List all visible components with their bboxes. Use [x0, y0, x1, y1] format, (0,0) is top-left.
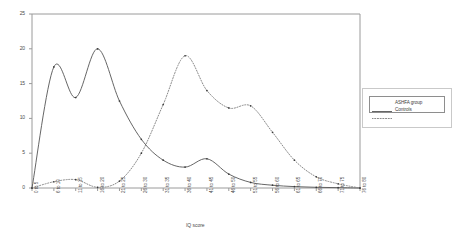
data-point-marker [140, 152, 142, 154]
data-point-marker [162, 159, 164, 161]
data-point-marker [315, 176, 317, 178]
data-point-marker [250, 105, 252, 107]
x-tick-label: 21 to 25 [121, 177, 126, 193]
data-point-marker [140, 138, 142, 140]
y-tick-label: 10 [11, 115, 25, 120]
data-point-marker [359, 187, 361, 189]
legend-container: ASHFA group Controls [362, 88, 452, 128]
x-tick-label: 56 to 60 [275, 177, 280, 193]
x-tick-label: 36 to 40 [187, 177, 192, 193]
series-markers-controls [31, 55, 361, 189]
x-tick-label: 76 to 80 [362, 177, 367, 193]
data-point-marker [272, 184, 274, 186]
y-tick-label: 0 [11, 185, 25, 190]
y-tick-label: 15 [11, 81, 25, 86]
series-line-ashfa-group [32, 49, 360, 188]
data-point-marker [228, 173, 230, 175]
data-point-marker [184, 55, 186, 57]
x-tick-label: 16 to 20 [100, 177, 105, 193]
data-point-marker [228, 107, 230, 109]
data-point-marker [294, 186, 296, 188]
y-tick-label: 25 [11, 11, 25, 16]
legend-label-ashfa-group: ASHFA group [395, 100, 422, 105]
data-point-marker [272, 131, 274, 133]
x-tick-label: 66 to 70 [318, 177, 323, 193]
x-axis-title: IQ score [186, 222, 205, 228]
data-point-marker [31, 187, 33, 189]
x-tick-label: 61 to 65 [296, 177, 301, 193]
y-tick-label: 5 [11, 150, 25, 155]
x-tick-label: 31 to 35 [165, 177, 170, 193]
legend-label-controls: Controls [395, 107, 412, 112]
series-line-controls [32, 56, 360, 188]
x-tick-label: 46 to 50 [231, 177, 236, 193]
x-tick-label: 71 to 75 [340, 177, 345, 193]
legend-swatch-solid-icon [372, 100, 392, 105]
data-point-marker [315, 186, 317, 188]
legend-swatch-dotted-icon [372, 107, 392, 112]
data-point-marker [53, 181, 55, 183]
data-point-marker [97, 186, 99, 188]
legend-item-controls[interactable]: Controls [372, 106, 442, 112]
x-tick-label: 11 to 15 [78, 177, 83, 193]
data-point-marker [53, 66, 55, 68]
data-point-marker [162, 104, 164, 106]
data-point-marker [206, 158, 208, 160]
data-point-marker [184, 166, 186, 168]
x-tick-label: 6 to 10 [56, 179, 61, 193]
data-point-marker [75, 179, 77, 181]
data-point-marker [97, 48, 99, 50]
data-point-marker [337, 187, 339, 189]
iq-score-distribution-chart: 0510152025 0 to 56 to 1011 to 1516 to 20… [0, 0, 454, 244]
legend: ASHFA group Controls [369, 96, 445, 113]
x-tick-label: 41 to 45 [209, 177, 214, 193]
data-point-marker [337, 183, 339, 185]
x-tick-label: 51 to 55 [253, 177, 258, 193]
data-point-marker [294, 159, 296, 161]
y-tick-label: 20 [11, 46, 25, 51]
x-tick-label: 26 to 30 [143, 177, 148, 193]
x-tick-label: 0 to 5 [34, 182, 39, 193]
plot-frame [32, 14, 360, 188]
data-point-marker [119, 100, 121, 102]
legend-item-ashfa-group[interactable]: ASHFA group [372, 99, 442, 105]
data-point-marker [250, 182, 252, 184]
data-point-marker [75, 97, 77, 99]
data-point-marker [206, 90, 208, 92]
